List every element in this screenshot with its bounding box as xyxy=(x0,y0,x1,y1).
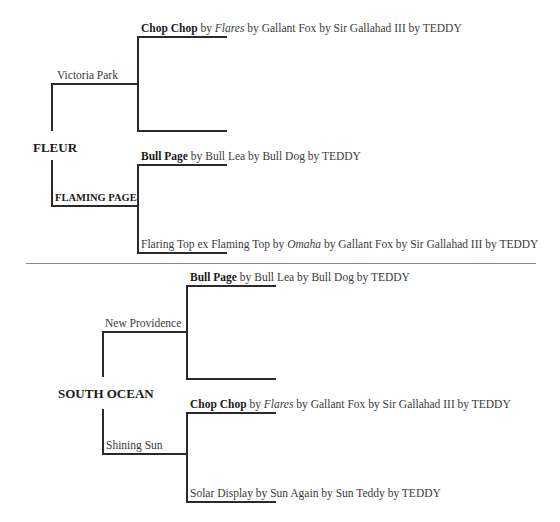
sire-line xyxy=(103,331,188,333)
dam-sire-line xyxy=(187,412,276,414)
horse-name: Chop Chop xyxy=(141,22,198,34)
dam-dam-label: Solar Display by Sun Again by Sun Teddy … xyxy=(190,487,441,500)
dam-bracket-vertical xyxy=(137,164,139,254)
by-text: by xyxy=(198,22,215,34)
horse-name-italic: Flares xyxy=(215,22,245,34)
lineage-text: by Bull Lea by Bull Dog by TEDDY xyxy=(237,271,410,283)
sire-sire-label: Chop Chop by Flares by Gallant Fox by Si… xyxy=(141,22,462,35)
dam-dam-line xyxy=(138,252,227,254)
subject-lower-vertical xyxy=(102,409,104,455)
subject-upper-vertical xyxy=(51,83,53,131)
sire-label: New Providence xyxy=(105,317,181,330)
dam-bracket-vertical xyxy=(186,412,188,503)
dam-line xyxy=(103,453,188,455)
horse-name-italic: Omaha xyxy=(287,238,321,250)
subject-upper-vertical xyxy=(102,331,104,377)
sire-sire-line xyxy=(138,36,227,38)
horse-name: Bull Page xyxy=(141,150,188,162)
lineage-text: by Gallant Fox by Sir Gallahad III by TE… xyxy=(321,238,538,250)
sire-label: Victoria Park xyxy=(57,69,118,82)
dam-sire-line xyxy=(138,164,227,166)
lineage-text: by Gallant Fox by Sir Gallahad III by TE… xyxy=(244,22,461,34)
sire-sire-line xyxy=(187,285,276,287)
lineage-text: by Bull Lea by Bull Dog by TEDDY xyxy=(188,150,361,162)
dam-dam-line xyxy=(187,501,276,503)
horse-name: Bull Page xyxy=(190,271,237,283)
dam-dam-label: Flaring Top ex Flaming Top by Omaha by G… xyxy=(141,238,538,251)
dam-sire-label: Bull Page by Bull Lea by Bull Dog by TED… xyxy=(141,150,361,163)
sire-dam-line xyxy=(138,130,227,132)
dam-line xyxy=(52,205,139,207)
dam-sire-label: Chop Chop by Flares by Gallant Fox by Si… xyxy=(190,398,511,411)
sire-dam-line xyxy=(187,378,276,380)
horse-name-italic: Flares xyxy=(264,398,294,410)
subject-name: FLEUR xyxy=(33,140,77,155)
separator-line xyxy=(26,263,536,264)
dam-label: Shining Sun xyxy=(106,439,163,452)
lineage-text: Flaring Top ex Flaming Top by xyxy=(141,238,287,250)
horse-name: Chop Chop xyxy=(190,398,247,410)
sire-line xyxy=(52,83,139,85)
subject-lower-vertical xyxy=(51,160,53,207)
sire-sire-label: Bull Page by Bull Lea by Bull Dog by TED… xyxy=(190,271,410,284)
by-text: by xyxy=(247,398,264,410)
dam-label: FLAMING PAGE xyxy=(55,191,137,204)
subject-name: SOUTH OCEAN xyxy=(58,386,154,401)
lineage-text: by Gallant Fox by Sir Gallahad III by TE… xyxy=(293,398,510,410)
